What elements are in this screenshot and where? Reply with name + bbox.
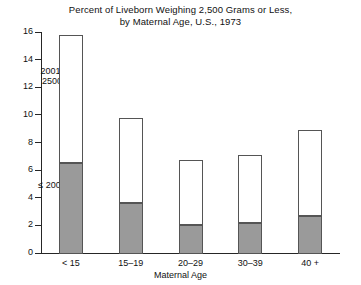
- x-axis-label-5: 40 +: [275, 258, 345, 268]
- chart-figure: Percent of Liveborn Weighing 2,500 Grams…: [0, 0, 361, 285]
- y-axis-tick-labels: 0246810121416: [0, 0, 33, 285]
- x-axis-title: Maternal Age: [0, 270, 361, 280]
- y-axis-label-14: 14: [3, 55, 33, 64]
- y-axis-label-2: 2: [3, 220, 33, 229]
- bar-segment-le-2000-5: [298, 216, 322, 254]
- bar-segment-2001-2500-1: [59, 35, 83, 163]
- bar-segment-le-2000-1: [59, 163, 83, 254]
- bar-segment-le-2000-2: [119, 203, 143, 254]
- bar-segment-2001-2500-2: [119, 118, 143, 204]
- chart-title: Percent of Liveborn Weighing 2,500 Grams…: [0, 4, 361, 28]
- y-axis-label-16: 16: [3, 27, 33, 36]
- y-axis-label-4: 4: [3, 193, 33, 202]
- y-axis-label-0: 0: [3, 248, 33, 257]
- bar-segment-le-2000-4: [238, 223, 262, 254]
- y-axis-label-8: 8: [3, 138, 33, 147]
- bar-segment-le-2000-3: [179, 225, 203, 254]
- y-axis-label-12: 12: [3, 82, 33, 91]
- bar-segment-2001-2500-5: [298, 130, 322, 216]
- chart-title-line-2: by Maternal Age, U.S., 1973: [0, 16, 361, 28]
- y-axis-label-10: 10: [3, 110, 33, 119]
- bar-segment-2001-2500-4: [238, 155, 262, 223]
- y-axis-label-6: 6: [3, 165, 33, 174]
- bar-segment-2001-2500-3: [179, 160, 203, 225]
- chart-title-line-1: Percent of Liveborn Weighing 2,500 Grams…: [0, 4, 361, 16]
